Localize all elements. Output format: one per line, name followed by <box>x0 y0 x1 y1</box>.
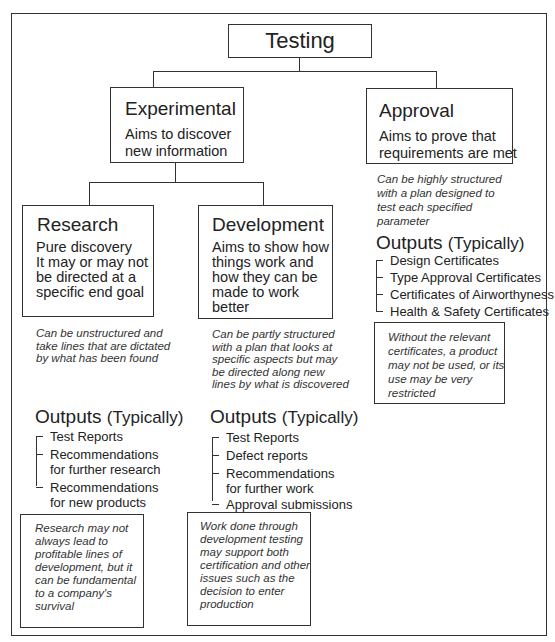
tick-icon <box>376 294 383 295</box>
list-item: Test Reports <box>36 429 161 447</box>
text-line: It may or may not <box>36 255 148 270</box>
text-line: development, but it <box>35 561 143 574</box>
experimental-title: Experimental <box>125 98 236 120</box>
text-line: new information <box>125 143 231 160</box>
outputs-label: Outputs <box>210 406 277 427</box>
connector-root-branch <box>153 71 436 72</box>
list-item: Recommendationsfor further work <box>212 466 352 497</box>
development-note: Can be partly structured with a plan tha… <box>212 328 349 391</box>
development-outputs-heading: Outputs (Typically) <box>210 406 358 429</box>
tick-icon <box>36 454 43 455</box>
development-outputs-list: Test Reports Defect reports Recommendati… <box>212 430 352 513</box>
text-line: Aims to discover <box>125 126 231 143</box>
item-text: Approval submissions <box>226 497 352 512</box>
item-text: Recommendations <box>226 466 352 481</box>
tick-icon <box>212 455 219 456</box>
text-line: Pure discovery <box>36 240 148 255</box>
text-line: use may be very <box>388 372 504 386</box>
text-line: may support both <box>200 546 310 559</box>
item-text: for new products <box>50 495 161 510</box>
outputs-sub-label: (Typically) <box>107 408 184 427</box>
item-text: Test Reports <box>226 430 352 445</box>
text-line: be directed at a <box>36 270 148 285</box>
approval-note: Can be highly structured with a plan des… <box>377 172 502 228</box>
research-outputs-heading: Outputs (Typically) <box>35 406 183 429</box>
item-text: Certificates of Airworthyness <box>390 287 554 302</box>
item-text: Design Certificates <box>390 253 499 268</box>
testing-label: Testing <box>265 28 335 54</box>
item-text: Type Approval Certificates <box>390 270 541 285</box>
text-line: profitable lines of <box>35 548 143 561</box>
approval-description: Aims to prove that requirements are met <box>379 128 517 162</box>
item-text: Test Reports <box>50 429 161 444</box>
item-text: Recommendations <box>50 447 161 462</box>
text-line: better <box>212 300 329 315</box>
research-title: Research <box>37 214 118 236</box>
text-line: Can be partly structured <box>212 328 349 341</box>
text-line: specific end goal <box>36 285 148 300</box>
research-outputs-list: Test Reports Recommendationsfor further … <box>36 429 161 513</box>
text-line: production <box>200 598 310 611</box>
text-line: by what has been found <box>36 352 170 365</box>
tick-icon <box>212 504 219 505</box>
text-line: Work done through <box>200 520 310 533</box>
text-line: restricted <box>388 386 504 400</box>
text-line: requirements are met <box>379 145 517 162</box>
text-line: Can be unstructured and <box>36 327 170 340</box>
connector-to-experimental <box>153 71 154 87</box>
approval-outputs-heading: Outputs (Typically) <box>376 232 524 255</box>
list-item: Test Reports <box>212 430 352 448</box>
text-line: certification and other <box>200 559 310 572</box>
list-item: Certificates of Airworthyness <box>376 287 554 304</box>
item-text: Health & Safety Certificates <box>390 304 549 319</box>
text-line: issues such as the <box>200 572 310 585</box>
approval-outputs-list: Design Certificates Type Approval Certif… <box>376 253 554 321</box>
research-callout: Research may not always lead to profitab… <box>20 514 144 628</box>
development-title: Development <box>212 214 324 236</box>
list-item: Recommendationsfor new products <box>36 480 161 513</box>
tick-icon <box>36 487 43 488</box>
text-line: things work and <box>212 255 329 270</box>
approval-title: Approval <box>379 100 454 122</box>
text-line: Can be highly structured <box>377 172 502 186</box>
item-text: for further research <box>50 462 161 477</box>
text-line: lines by what is discovered <box>212 378 349 391</box>
approval-node: Approval Aims to prove that requirements… <box>366 88 513 164</box>
connector-to-approval <box>436 71 437 88</box>
text-line: certificates, a product <box>388 344 504 358</box>
list-item: Design Certificates <box>376 253 554 270</box>
testing-node: Testing <box>228 24 372 58</box>
text-line: with a plan designed to <box>377 186 502 200</box>
list-item: Type Approval Certificates <box>376 270 554 287</box>
text-line: parameter <box>377 214 502 228</box>
connector-to-research <box>89 182 90 205</box>
outputs-sub-label: (Typically) <box>448 234 525 253</box>
text-line: may not be used, or its <box>388 358 504 372</box>
list-item: Health & Safety Certificates <box>376 304 554 321</box>
outputs-sub-label: (Typically) <box>282 408 359 427</box>
connector-to-development <box>263 182 264 205</box>
text-line: decision to enter <box>200 585 310 598</box>
list-item: Recommendationsfor further research <box>36 447 161 480</box>
text-line: Aims to prove that <box>379 128 517 145</box>
development-node: Development Aims to show how things work… <box>198 205 333 319</box>
outputs-label: Outputs <box>376 232 443 253</box>
research-note: Can be unstructured and take lines that … <box>36 327 170 365</box>
item-text: Defect reports <box>226 448 352 463</box>
text-line: Without the relevant <box>388 330 504 344</box>
text-line: test each specified <box>377 200 502 214</box>
text-line: be directed along new <box>212 366 349 379</box>
text-line: how they can be <box>212 270 329 285</box>
text-line: Research may not <box>35 522 143 535</box>
text-line: take lines that are dictated <box>36 340 170 353</box>
tick-icon <box>212 473 219 474</box>
text-line: to a company's <box>35 587 143 600</box>
tick-icon <box>212 437 219 438</box>
text-line: can be fundamental <box>35 574 143 587</box>
connector-root-down <box>299 57 300 71</box>
experimental-description: Aims to discover new information <box>125 126 231 160</box>
tick-icon <box>36 436 43 437</box>
text-line: made to work <box>212 285 329 300</box>
experimental-node: Experimental Aims to discover new inform… <box>110 87 244 163</box>
list-item: Defect reports <box>212 448 352 466</box>
